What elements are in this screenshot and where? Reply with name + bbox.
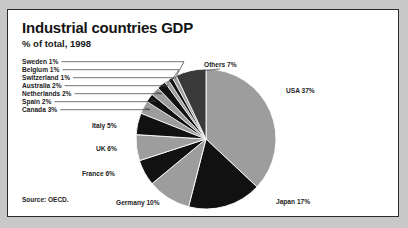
pie-slice-group [136, 69, 276, 209]
pie-chart: Sweden 1%Belgium 1%Switzerland 1%Austral… [8, 10, 399, 217]
pie-label-italy: Italy 5% [92, 123, 117, 130]
pie-label-switzerland: Switzerland 1% [22, 75, 70, 82]
pie-label-spain: Spain 2% [22, 99, 51, 106]
pie-label-others: Others 7% [204, 62, 237, 69]
pie-label-france: France 6% [82, 171, 115, 178]
pie-label-uk: UK 6% [96, 146, 117, 153]
pie-label-sweden: Sweden 1% [22, 59, 58, 66]
pie-label-japan: Japan 17% [276, 199, 310, 206]
pie-label-belgium: Belgium 1% [22, 67, 59, 74]
pie-label-usa: USA 37% [286, 88, 315, 95]
pie-label-australia: Australia 2% [22, 83, 62, 90]
screenshot-root: Industrial countries GDP % of total, 199… [0, 0, 408, 228]
chart-panel: Industrial countries GDP % of total, 199… [7, 9, 399, 217]
source-note: Source: OECD. [22, 196, 69, 203]
pie-chart-svg [8, 10, 399, 217]
pie-label-canada: Canada 3% [22, 107, 57, 114]
pie-label-netherlands: Netherlands 2% [22, 91, 71, 98]
pie-label-germany: Germany 10% [116, 200, 160, 207]
